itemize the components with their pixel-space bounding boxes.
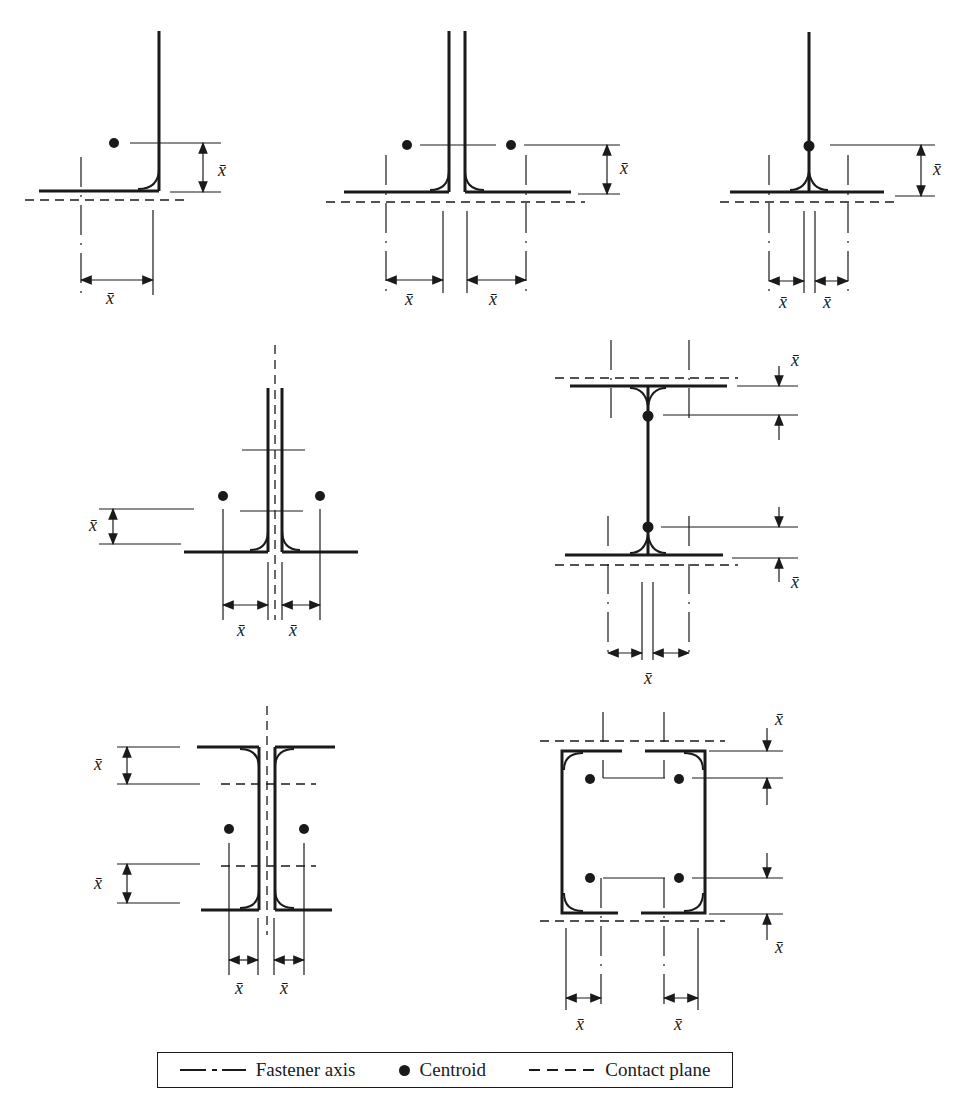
dashed-line-icon — [529, 1069, 595, 1071]
legend-item-contact-plane: Contact plane — [529, 1059, 710, 1081]
panel-tee: x̄ x̄ x̄ — [720, 32, 941, 312]
panel-wide-flange: x̄ x̄ x̄ — [555, 340, 799, 688]
panel-back-to-back-channels: x̄ x̄ x̄ x̄ — [93, 706, 335, 998]
x-bar-label: x̄ — [488, 289, 497, 309]
x-bar-label: x̄ — [105, 288, 114, 308]
x-bar-label: x̄ — [673, 1014, 682, 1034]
x-bar-label: x̄ — [778, 292, 787, 312]
panel-box-channels: x̄ x̄ x̄ x̄ — [540, 709, 783, 1034]
x-bar-label: x̄ — [774, 709, 783, 729]
x-bar-label: x̄ — [234, 978, 243, 998]
centroid-dot — [643, 411, 654, 422]
centroid-dot — [506, 140, 516, 150]
centroid-dot — [402, 140, 412, 150]
centroid-dot — [109, 138, 119, 148]
x-bar-label: x̄ — [790, 572, 799, 592]
centroid-dot — [315, 491, 325, 501]
centroid-dot — [804, 141, 815, 152]
legend-item-fastener-axis: Fastener axis — [180, 1059, 356, 1081]
x-bar-label: x̄ — [774, 937, 783, 957]
legend-label: Centroid — [420, 1059, 487, 1081]
centroid-dot — [674, 774, 684, 784]
x-bar-label: x̄ — [790, 350, 799, 370]
dash-dot-line-icon — [180, 1069, 246, 1071]
x-bar-label: x̄ — [279, 978, 288, 998]
centroid-dot — [643, 522, 654, 533]
legend-label: Contact plane — [605, 1059, 710, 1081]
centroid-dot — [585, 873, 595, 883]
x-bar-label: x̄ — [619, 158, 628, 178]
x-bar-label: x̄ — [93, 873, 102, 893]
fastener-centroid-diagram: x̄ x̄ x̄ x̄ x̄ — [0, 0, 973, 1114]
legend-item-centroid: Centroid — [399, 1059, 487, 1081]
x-bar-label: x̄ — [288, 620, 297, 640]
legend-label: Fastener axis — [256, 1059, 356, 1081]
x-bar-label: x̄ — [643, 668, 652, 688]
panel-single-angle: x̄ x̄ — [25, 31, 226, 308]
panel-separated-angles: x̄ x̄ x̄ — [88, 345, 358, 640]
centroid-dot — [218, 491, 228, 501]
x-bar-label: x̄ — [932, 159, 941, 179]
x-bar-label: x̄ — [822, 292, 831, 312]
centroid-dot — [224, 824, 234, 834]
x-bar-label: x̄ — [217, 160, 226, 180]
x-bar-label: x̄ — [236, 620, 245, 640]
centroid-dot — [299, 824, 309, 834]
legend: Fastener axis Centroid Contact plane — [157, 1052, 733, 1088]
x-bar-label: x̄ — [88, 515, 97, 535]
panel-double-angle: x̄ x̄ x̄ — [326, 31, 628, 309]
x-bar-label: x̄ — [93, 754, 102, 774]
centroid-dot — [674, 873, 684, 883]
centroid-dot — [585, 774, 595, 784]
x-bar-label: x̄ — [575, 1014, 584, 1034]
filled-dot-icon — [399, 1065, 410, 1076]
x-bar-label: x̄ — [404, 289, 413, 309]
